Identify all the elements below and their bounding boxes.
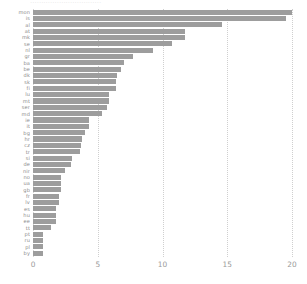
bar-fill	[33, 105, 107, 110]
bar-fill	[33, 41, 172, 46]
bar	[33, 130, 85, 135]
bar	[33, 143, 81, 148]
bar	[33, 86, 116, 91]
bar	[33, 232, 43, 237]
bar-fill	[33, 156, 72, 161]
bar	[33, 238, 43, 243]
x-tick-label: 15	[223, 260, 232, 269]
bar-fill	[33, 244, 43, 249]
bar-chart: ································ monisal…	[0, 0, 307, 284]
bar	[33, 213, 56, 218]
bar	[33, 168, 65, 173]
bar-fill	[33, 79, 116, 84]
bar	[33, 67, 121, 72]
bar-fill	[33, 219, 56, 224]
bar	[33, 54, 133, 59]
x-tick-label: 5	[95, 260, 100, 269]
x-tick-label: 0	[31, 260, 36, 269]
bar	[33, 98, 109, 103]
bar	[33, 225, 51, 230]
bar-fill	[33, 10, 292, 15]
bar-fill	[33, 225, 51, 230]
bar-fill	[33, 35, 185, 40]
bar-fill	[33, 181, 61, 186]
bar-fill	[33, 124, 89, 129]
bar-fill	[33, 149, 80, 154]
bar	[33, 22, 222, 27]
bar	[33, 41, 172, 46]
bar	[33, 35, 185, 40]
bar-fill	[33, 251, 43, 256]
bar-rows: monisalatmksenlgrbabedkskfilumtsermdieit…	[0, 9, 307, 256]
bar	[33, 111, 102, 116]
bar-fill	[33, 200, 59, 205]
bar-fill	[33, 86, 116, 91]
bar-fill	[33, 48, 153, 53]
bar-fill	[33, 143, 81, 148]
bar	[33, 73, 117, 78]
bar	[33, 105, 107, 110]
y-axis-label: by	[0, 250, 30, 256]
bar-fill	[33, 92, 109, 97]
bar-fill	[33, 98, 109, 103]
x-tick-label: 20	[287, 260, 296, 269]
bar	[33, 16, 286, 21]
bar	[33, 156, 72, 161]
bar	[33, 92, 109, 97]
bar-fill	[33, 22, 222, 27]
bar	[33, 60, 124, 65]
bar-fill	[33, 60, 124, 65]
bar-fill	[33, 130, 85, 135]
plot-area: monisalatmksenlgrbabedkskfilumtsermdieit…	[0, 0, 307, 284]
bar-fill	[33, 206, 56, 211]
bar-fill	[33, 168, 65, 173]
bar	[33, 219, 56, 224]
bar-fill	[33, 117, 89, 122]
x-axis: 05101520	[0, 260, 307, 276]
bar	[33, 117, 89, 122]
bar-fill	[33, 194, 59, 199]
bar-fill	[33, 67, 121, 72]
bar	[33, 48, 153, 53]
bar-fill	[33, 136, 82, 141]
bar-fill	[33, 54, 133, 59]
bar	[33, 79, 116, 84]
bar-fill	[33, 187, 61, 192]
bar-fill	[33, 175, 61, 180]
bar	[33, 251, 43, 256]
bar-row: by	[0, 250, 307, 256]
bar	[33, 29, 185, 34]
bar-fill	[33, 16, 286, 21]
bar	[33, 194, 59, 199]
bar	[33, 200, 59, 205]
bar	[33, 10, 292, 15]
bar	[33, 175, 61, 180]
bar-fill	[33, 111, 102, 116]
bar	[33, 124, 89, 129]
bar	[33, 162, 71, 167]
bar-fill	[33, 232, 43, 237]
bar-fill	[33, 238, 43, 243]
bar-fill	[33, 162, 71, 167]
bar	[33, 136, 82, 141]
bar-fill	[33, 213, 56, 218]
bar	[33, 244, 43, 249]
bar	[33, 187, 61, 192]
bar	[33, 206, 56, 211]
bar-fill	[33, 73, 117, 78]
bar	[33, 181, 61, 186]
bar-fill	[33, 29, 185, 34]
x-tick-label: 10	[158, 260, 167, 269]
bar	[33, 149, 80, 154]
